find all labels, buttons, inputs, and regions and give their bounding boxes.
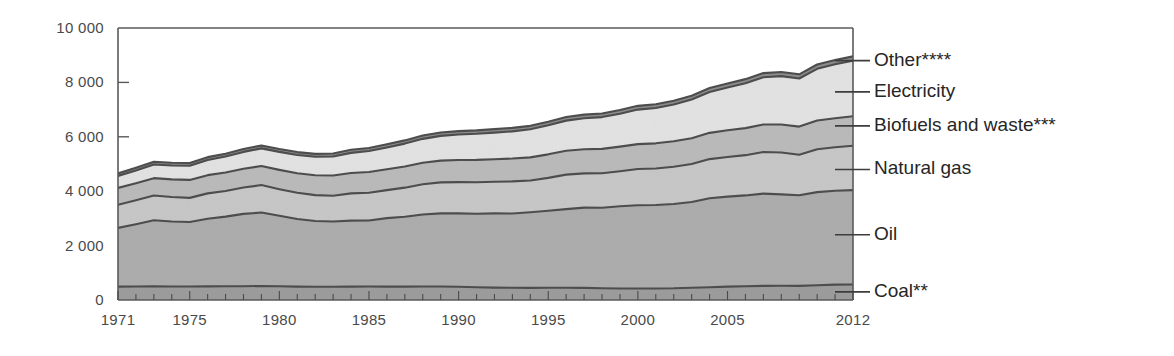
legend-label: Oil xyxy=(874,223,897,244)
y-axis-tick-label: 6 000 xyxy=(65,128,104,145)
y-axis-tick-label: 10 000 xyxy=(56,19,104,36)
legend-label: Other**** xyxy=(874,49,952,70)
y-axis-tick-label: 8 000 xyxy=(65,73,104,90)
x-axis-tick-label: 1971 xyxy=(101,311,136,328)
x-axis-tick-label: 1990 xyxy=(441,311,476,328)
x-axis-tick-label: 2005 xyxy=(710,311,745,328)
x-axis-tick-label: 1980 xyxy=(262,311,297,328)
x-axis-tick-label: 1995 xyxy=(531,311,566,328)
x-axis-tick-label: 1975 xyxy=(172,311,207,328)
y-axis-tick-label: 0 xyxy=(95,291,104,308)
x-axis-tick-label: 2012 xyxy=(836,311,871,328)
legend-label: Biofuels and waste*** xyxy=(874,114,1056,135)
y-axis-tick-label: 4 000 xyxy=(65,182,104,199)
y-axis-tick-label: 2 000 xyxy=(65,237,104,254)
stacked-area-chart: 02 0004 0006 0008 00010 000 197119751980… xyxy=(0,0,1174,356)
x-axis-tick-label: 1985 xyxy=(352,311,387,328)
legend-label: Coal** xyxy=(874,280,928,301)
legend-label: Electricity xyxy=(874,80,956,101)
x-axis-tick-label: 2000 xyxy=(621,311,656,328)
legend-label: Natural gas xyxy=(874,157,971,178)
chart-canvas: 02 0004 0006 0008 00010 000 197119751980… xyxy=(0,0,1174,356)
